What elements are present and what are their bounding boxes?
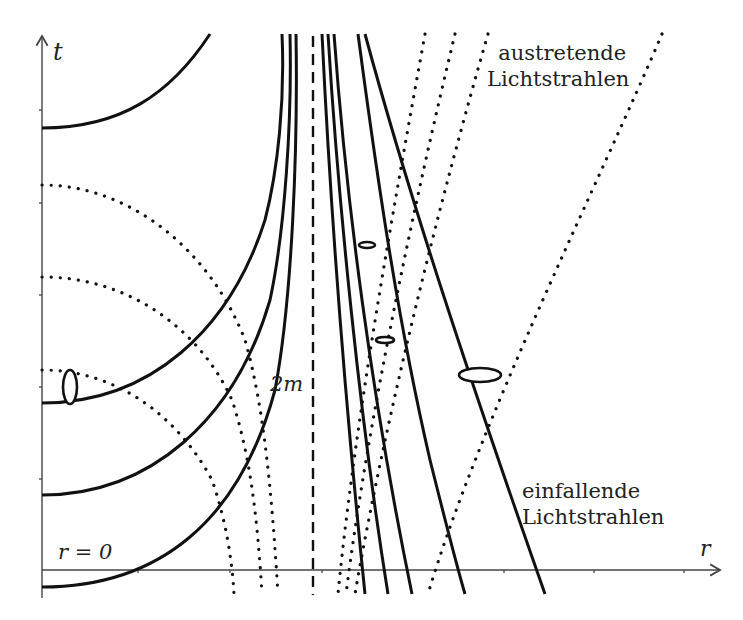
incoming-rays-label-line2: Lichtstrahlen <box>522 504 664 530</box>
origin-label: r = 0 <box>58 540 112 564</box>
light-cone-center <box>63 370 77 404</box>
outgoing-rays-label: austretende Lichtstrahlen <box>495 40 629 92</box>
incoming-rays-label-line1: einfallende <box>522 478 664 504</box>
light-cone-near-horizon-2 <box>376 337 394 343</box>
t-axis-label: t <box>53 38 63 66</box>
outgoing-rays-label-line2: Lichtstrahlen <box>487 66 629 92</box>
inner-worldlines <box>42 34 296 587</box>
incoming-rays-label: einfallende Lichtstrahlen <box>522 478 664 530</box>
light-cone-near-horizon-1 <box>359 242 375 248</box>
r-axis-label: r <box>700 536 711 561</box>
light-cone-far <box>459 368 501 382</box>
horizon-label: 2m <box>270 372 303 396</box>
spacetime-diagram: t r r = 0 2m austretende Lichtstrahlen e… <box>0 0 743 620</box>
outgoing-rays-label-line1: austretende <box>495 40 629 66</box>
outer-worldlines <box>322 34 545 594</box>
